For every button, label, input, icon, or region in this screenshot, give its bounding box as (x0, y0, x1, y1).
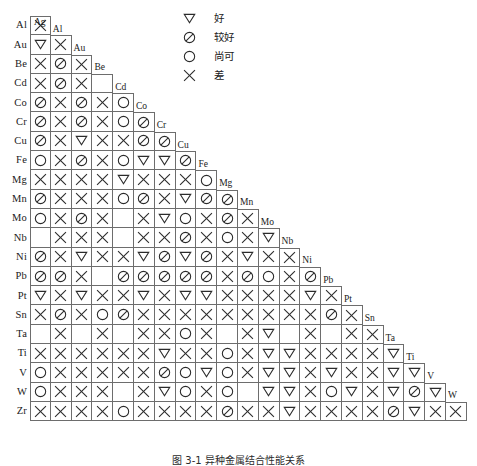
figure-caption: 图 3-1 异种金属结合性能关系 (0, 452, 477, 466)
matrix-cell (51, 325, 72, 344)
cross-icon (95, 404, 110, 419)
matrix-cell (217, 383, 238, 402)
matrix-cell (30, 132, 51, 151)
matrix-cell (134, 286, 155, 305)
matrix-cell (134, 363, 155, 382)
matrix-cell (51, 93, 72, 112)
diagonal-column-label: Fe (196, 151, 218, 170)
matrix-cell (217, 209, 238, 228)
cross-icon (344, 326, 359, 341)
triangle-down-icon (240, 249, 255, 264)
cross-icon (74, 307, 89, 322)
matrix-cell (321, 402, 342, 421)
matrix-cell (134, 325, 155, 344)
matrix-cell (134, 209, 155, 228)
row-label: V (6, 363, 30, 382)
circle-icon (33, 153, 48, 168)
cross-icon (324, 346, 339, 361)
matrix-row-cells (30, 209, 259, 228)
matrix-cell (300, 305, 321, 324)
cross-icon (178, 172, 193, 187)
matrix-cell (134, 170, 155, 189)
cross-icon (199, 326, 214, 341)
triangle-down-icon (136, 288, 151, 303)
circle-slash-icon (386, 404, 401, 419)
matrix-cell (155, 248, 176, 267)
matrix-cell (72, 383, 93, 402)
matrix-cell (280, 286, 301, 305)
matrix-cell (280, 305, 301, 324)
matrix-cell (30, 93, 51, 112)
cross-icon (33, 56, 48, 71)
diagonal-column-label: Pt (342, 286, 364, 305)
matrix-cell (155, 132, 176, 151)
cross-icon (365, 365, 380, 380)
cross-icon (53, 249, 68, 264)
row-label: Cd (6, 74, 30, 93)
triangle-down-icon (282, 404, 297, 419)
matrix-row: VV (6, 363, 468, 382)
matrix-row: FeFe (6, 151, 468, 170)
matrix-cell (217, 228, 238, 247)
matrix-cell (217, 344, 238, 363)
matrix-cell (113, 383, 134, 402)
circle-icon (261, 269, 276, 284)
cross-icon (74, 384, 89, 399)
cross-icon (74, 172, 89, 187)
matrix-cell (300, 286, 321, 305)
matrix-cell (155, 305, 176, 324)
cross-icon (136, 384, 151, 399)
triangle-down-icon (157, 346, 172, 361)
matrix-cell (425, 383, 446, 402)
circle-icon (178, 365, 193, 380)
matrix-cell (238, 228, 259, 247)
matrix-cell (113, 402, 134, 421)
matrix-cell (92, 267, 113, 286)
matrix-cell (113, 209, 134, 228)
cross-icon (95, 346, 110, 361)
row-label: Ti (6, 344, 30, 363)
matrix-row-cells (30, 190, 238, 209)
matrix-cell (363, 344, 384, 363)
matrix-cell (92, 93, 113, 112)
matrix-row: BeBe (6, 55, 468, 74)
matrix-cell (92, 402, 113, 421)
matrix-cell (155, 190, 176, 209)
matrix-cell (280, 344, 301, 363)
diagonal-column-label: Nb (280, 228, 302, 247)
cross-icon (95, 191, 110, 206)
cross-icon (95, 384, 110, 399)
circle-slash-icon (53, 307, 68, 322)
matrix-cell (259, 286, 280, 305)
matrix-cell (134, 344, 155, 363)
matrix-cell (72, 363, 93, 382)
matrix-cell (134, 190, 155, 209)
circle-slash-icon (407, 384, 422, 399)
diagonal-column-label: V (425, 363, 447, 382)
matrix-cell (92, 286, 113, 305)
cross-icon (157, 404, 172, 419)
triangle-down-icon (199, 288, 214, 303)
cross-icon (74, 269, 89, 284)
matrix-cell (72, 305, 93, 324)
matrix-row-cells (30, 151, 196, 170)
matrix-row-cells (30, 248, 300, 267)
triangle-down-icon (74, 249, 89, 264)
cross-icon (157, 230, 172, 245)
row-label: Ni (6, 248, 30, 267)
cross-icon (136, 230, 151, 245)
circle-slash-icon (157, 365, 172, 380)
matrix-cell (72, 209, 93, 228)
matrix-cell (134, 151, 155, 170)
triangle-down-icon (178, 249, 193, 264)
matrix-row: NbNb (6, 228, 468, 247)
cross-icon (53, 133, 68, 148)
matrix-row-cells (30, 112, 155, 131)
triangle-down-icon (303, 288, 318, 303)
matrix-cell (176, 151, 197, 170)
cross-icon (95, 365, 110, 380)
diagonal-column-label: Mo (259, 209, 281, 228)
cross-icon (74, 191, 89, 206)
matrix-cell (30, 325, 51, 344)
matrix-cell (176, 305, 197, 324)
